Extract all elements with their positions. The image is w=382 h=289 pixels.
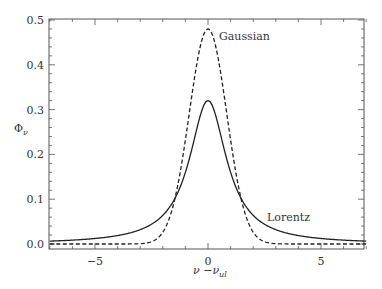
y-tick-label: 0.5 [27,14,45,27]
y-tick-label: 0.4 [27,59,45,72]
gaussian-label: Gaussian [219,30,270,43]
tick-labels: −5050.00.10.20.30.40.5 [27,14,325,268]
y-tick-label: 0.0 [27,238,45,251]
gaussian-curve [50,29,366,244]
x-axis-label: ν −νul [193,264,227,279]
lorentz-curve [50,101,366,241]
x-tick-label: −5 [87,255,103,268]
y-axis-label: Φν [14,122,28,137]
plot-frame [49,19,364,249]
curves [50,29,366,244]
x-tick-label: 5 [318,255,325,268]
y-tick-label: 0.3 [27,104,45,117]
lorentz-label: Lorentz [267,211,310,224]
line-chart: −5050.00.10.20.30.40.5 Gaussian Lorentz … [0,0,382,289]
y-tick-label: 0.2 [27,148,45,161]
axis-ticks [49,19,366,249]
y-tick-label: 0.1 [27,193,45,206]
